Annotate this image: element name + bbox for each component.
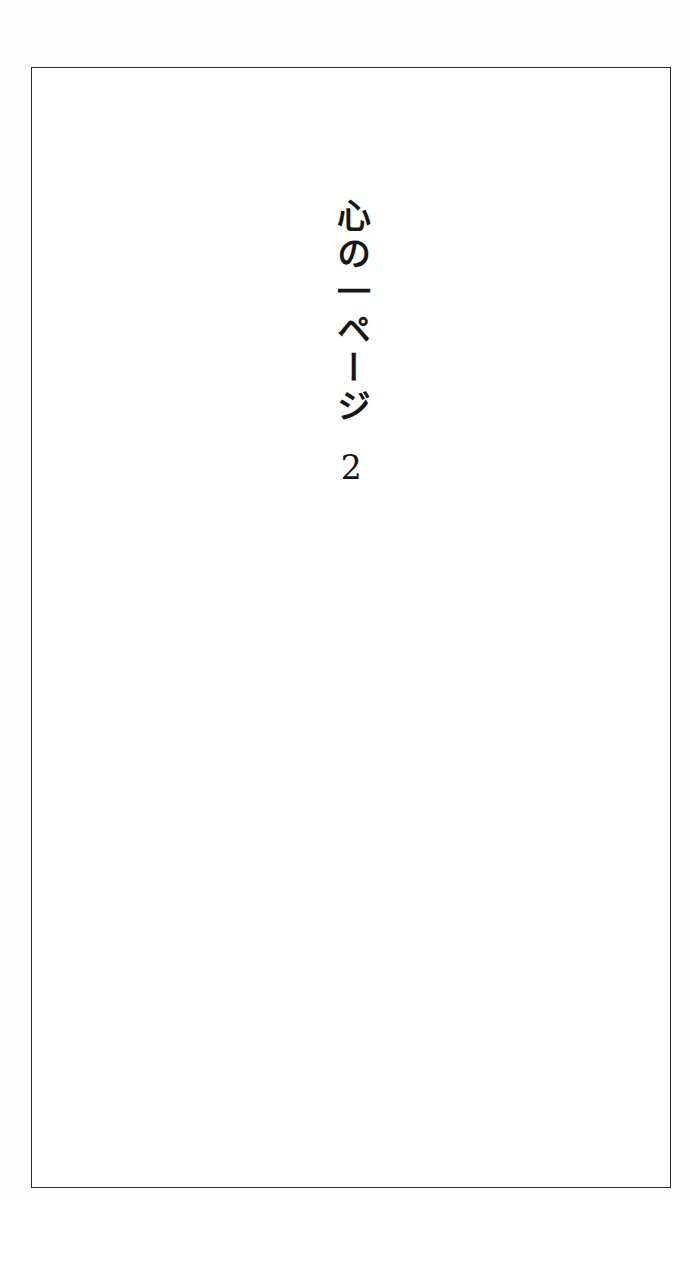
scan-artifact-band: [0, 1200, 690, 1263]
volume-number: 2: [331, 448, 371, 487]
page-border-frame: 心の一ページ 2: [31, 67, 671, 1188]
scanned-book-page: 心の一ページ 2: [0, 0, 690, 1263]
title-block: 心の一ページ 2: [32, 198, 670, 487]
page-title: 心の一ページ: [328, 198, 374, 426]
